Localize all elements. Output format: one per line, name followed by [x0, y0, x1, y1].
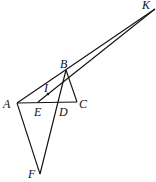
segment-A-K: [17, 9, 155, 103]
segment-A-C: [17, 102, 77, 103]
label-A: A: [2, 97, 11, 111]
geometry-diagram: K B I A C E D F: [0, 0, 156, 182]
label-C: C: [79, 97, 88, 111]
label-E: E: [33, 105, 42, 119]
label-F: F: [27, 167, 36, 181]
segment-E-K: [38, 9, 155, 102]
label-B: B: [60, 57, 68, 71]
label-K: K: [141, 0, 151, 12]
label-D: D: [58, 105, 68, 119]
